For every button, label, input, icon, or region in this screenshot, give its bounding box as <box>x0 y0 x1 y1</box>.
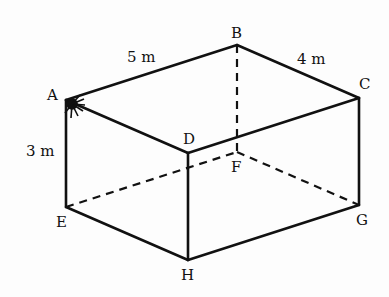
vertex-label-d: D <box>183 132 195 147</box>
edge-hg <box>188 205 359 260</box>
vertex-label-e: E <box>56 215 67 230</box>
vertex-label-c: C <box>359 77 370 92</box>
edge-eh <box>66 207 188 260</box>
edge-da <box>66 100 188 153</box>
vertex-label-b: B <box>231 26 242 41</box>
dimension-height-label: 3 m <box>26 144 55 159</box>
vertex-label-h: H <box>181 268 194 283</box>
vertex-label-f: F <box>231 160 241 175</box>
hidden-edge-ef <box>66 152 237 207</box>
rectangular-prism-diagram: A B C D E F G H 5 m 4 m 3 m <box>0 0 389 297</box>
vertex-label-a: A <box>47 88 58 103</box>
prism-drawing <box>0 0 389 297</box>
dimension-width-label: 4 m <box>297 52 326 67</box>
vertex-label-g: G <box>356 213 368 228</box>
hidden-edge-fg <box>237 152 359 205</box>
edge-cd <box>188 98 359 153</box>
dimension-length-label: 5 m <box>127 50 156 65</box>
